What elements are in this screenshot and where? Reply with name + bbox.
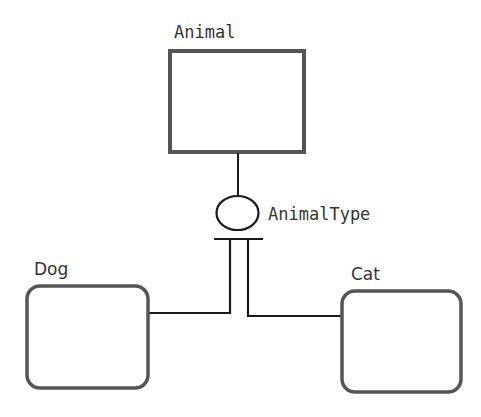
entity-animal[interactable]: Animal: [170, 22, 304, 152]
entity-dog[interactable]: Dog: [27, 259, 148, 388]
entity-dog-label: Dog: [34, 259, 68, 279]
entity-animal-label: Animal: [174, 22, 235, 42]
discriminator[interactable]: AnimalType: [217, 196, 371, 230]
discriminator-label: AnimalType: [268, 204, 370, 224]
discriminator-ellipse: [217, 196, 259, 230]
dog-connector-line: [148, 240, 230, 313]
entity-dog-box: [27, 286, 148, 388]
diagram-canvas: Animal AnimalType Dog Cat: [0, 0, 481, 417]
entity-animal-box: [170, 51, 304, 152]
entity-cat[interactable]: Cat: [342, 264, 461, 392]
cat-connector-line: [248, 240, 342, 316]
entity-cat-label: Cat: [351, 264, 380, 284]
entity-cat-box: [342, 291, 461, 392]
